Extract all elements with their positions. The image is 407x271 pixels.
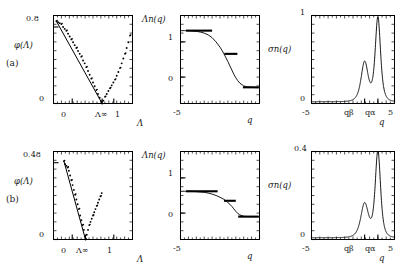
panel-b-i-plot xyxy=(0,136,140,271)
figure-root: (a) φ(Λ) 0.8 0 0 Λ∞ 1 Λ (i) sα sβ Λn(q) … xyxy=(0,0,407,271)
panel-a-i-plot xyxy=(0,0,140,135)
panel-b-ii-plot xyxy=(140,136,270,271)
panel-a-ii-plot xyxy=(140,0,270,135)
figure-row-b: (b) φ(Λ) 0.48 0 0 Λ∞ 1 Λ (i) sα sβ Λn(q)… xyxy=(0,136,407,271)
figure-row-a: (a) φ(Λ) 0.8 0 0 Λ∞ 1 Λ (i) sα sβ Λn(q) … xyxy=(0,0,407,135)
panel-b-iii-plot xyxy=(266,136,407,271)
panel-a-iii-plot xyxy=(266,0,407,135)
